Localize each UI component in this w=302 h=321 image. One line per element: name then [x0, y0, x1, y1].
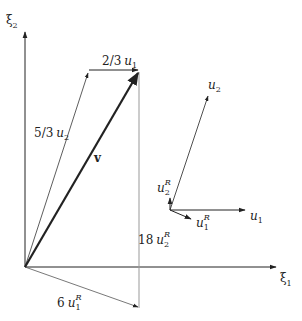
basis-u1R	[170, 210, 191, 219]
xi1-axis-label: ξ1	[280, 271, 292, 288]
basis-inset	[170, 96, 245, 219]
label-v: v	[93, 151, 102, 165]
vector-6-u1R	[25, 267, 138, 307]
label-u2: u2	[208, 78, 221, 94]
label-2-3-u1: 2/3u1	[102, 54, 137, 70]
xi2-axis-label: ξ2	[6, 13, 18, 30]
vector-5-3-u2	[25, 73, 88, 267]
label-18-u2R: 18u2R	[138, 230, 170, 249]
label-6-u1R: 6u1R	[57, 293, 82, 312]
label-u1: u1	[250, 209, 263, 225]
vector-diagram: ξ2 ξ1 2/3u1 5/3u2 v 18u2R 6u1R u1 u2 u1R…	[0, 0, 302, 321]
label-u1R: u1R	[196, 213, 210, 232]
label-5-3-u2: 5/3u2	[34, 126, 69, 142]
label-u2R: u2R	[157, 178, 171, 197]
vector-v	[25, 73, 138, 267]
basis-u2	[170, 96, 208, 210]
